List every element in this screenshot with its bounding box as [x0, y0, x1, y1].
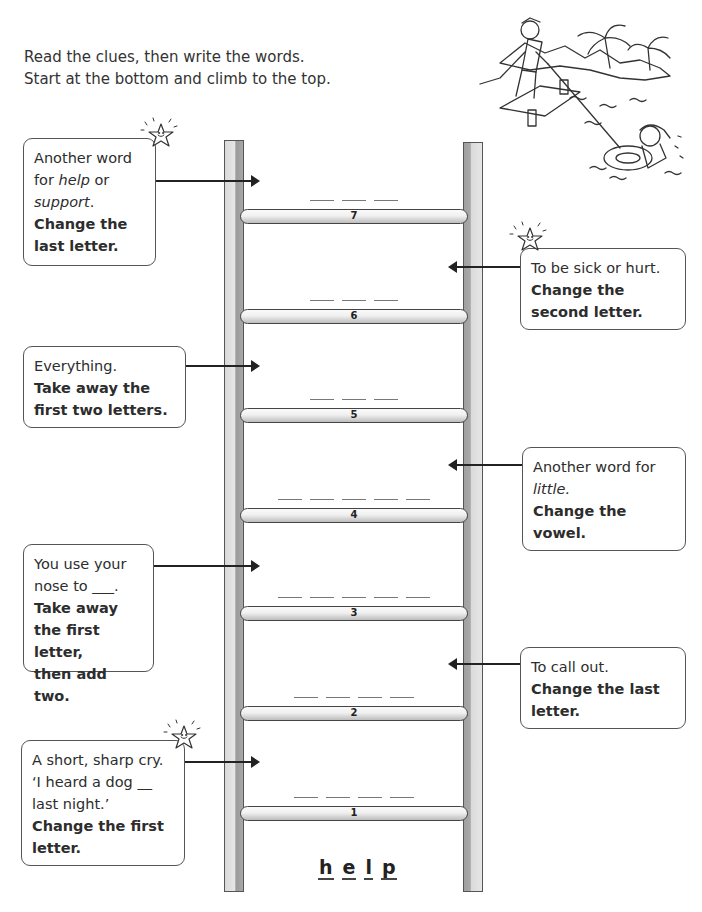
letter-blank[interactable]	[342, 399, 366, 400]
ladder-rung-1: 1	[240, 806, 468, 821]
ladder-rung-7: 7	[240, 209, 468, 224]
clue-instruction: Take away the	[34, 377, 175, 399]
smiling-star-icon	[506, 220, 550, 256]
letter-blank[interactable]	[294, 797, 318, 798]
letter-blank[interactable]	[374, 597, 398, 598]
answer-blanks-rung-7[interactable]	[310, 200, 398, 201]
clue-text: Another word for	[533, 456, 675, 478]
letter-blank[interactable]	[374, 499, 398, 500]
clue-box-rung-7: Another word for help or support. Change…	[23, 138, 156, 266]
start-word: h e l p	[318, 856, 397, 880]
start-word-letter: e	[342, 856, 357, 880]
clue-text: You use your	[34, 553, 143, 575]
letter-blank[interactable]	[342, 597, 366, 598]
answer-blanks-rung-2[interactable]	[294, 697, 414, 698]
clue-box-rung-6: To be sick or hurt. Change the second le…	[520, 248, 686, 330]
ladder-rung-5: 5	[240, 408, 468, 423]
answer-blanks-rung-5[interactable]	[310, 399, 398, 400]
clue-instruction: Change the	[533, 500, 675, 522]
letter-blank[interactable]	[310, 200, 334, 201]
letter-blank[interactable]	[294, 697, 318, 698]
ladder-rung-3: 3	[240, 606, 468, 621]
clue-text: A short, sharp cry.	[32, 749, 174, 771]
smiling-star-icon	[160, 718, 204, 754]
clue-instruction: Change the	[34, 213, 145, 235]
instructions-line-1: Read the clues, then write the words.	[24, 46, 331, 68]
letter-blank[interactable]	[406, 597, 430, 598]
start-word-letter: p	[381, 856, 397, 880]
ladder-rung-4: 4	[240, 508, 468, 523]
arrow-right-icon	[156, 180, 252, 182]
clue-instruction: vowel.	[533, 522, 675, 544]
letter-blank[interactable]	[342, 200, 366, 201]
letter-blank[interactable]	[326, 697, 350, 698]
letter-blank[interactable]	[342, 499, 366, 500]
letter-blank[interactable]	[358, 697, 382, 698]
answer-blanks-rung-3[interactable]	[278, 597, 430, 598]
letter-blank[interactable]	[326, 797, 350, 798]
letter-blank[interactable]	[358, 797, 382, 798]
clue-instruction: first two letters.	[34, 399, 175, 421]
clue-text: little.	[533, 481, 570, 497]
clue-instruction: Change the first	[32, 815, 174, 837]
clue-box-rung-1: A short, sharp cry. ‘I heard a dog __ la…	[21, 740, 185, 866]
start-word-letter: h	[318, 856, 334, 880]
clue-text: support.	[34, 194, 94, 210]
clue-text: To call out.	[531, 656, 675, 678]
arrow-left-icon	[456, 464, 522, 466]
letter-blank[interactable]	[342, 300, 366, 301]
clue-instruction: last letter.	[34, 235, 145, 257]
ladder-rung-2: 2	[240, 706, 468, 721]
answer-blanks-rung-4[interactable]	[278, 499, 430, 500]
arrow-left-icon	[456, 266, 520, 268]
clue-text: Another word	[34, 150, 132, 166]
clue-instruction: Change the last	[531, 678, 675, 700]
arrow-right-icon	[185, 761, 252, 763]
clue-box-rung-5: Everything. Take away the first two lett…	[23, 346, 186, 428]
arrow-right-icon	[186, 365, 252, 367]
smiling-star-icon	[137, 116, 181, 152]
clue-instruction: then add two.	[34, 663, 143, 707]
answer-blanks-rung-1[interactable]	[294, 797, 414, 798]
letter-blank[interactable]	[390, 797, 414, 798]
letter-blank[interactable]	[278, 499, 302, 500]
clue-text: Everything.	[34, 355, 175, 377]
clue-instruction: second letter.	[531, 301, 675, 323]
clue-instruction: the first letter,	[34, 619, 143, 663]
clue-box-rung-2: To call out. Change the last letter.	[520, 647, 686, 729]
answer-blanks-rung-6[interactable]	[310, 300, 398, 301]
letter-blank[interactable]	[310, 300, 334, 301]
clue-box-rung-3: You use your nose to ___. Take away the …	[23, 544, 154, 672]
letter-blank[interactable]	[310, 399, 334, 400]
clue-text: nose to ___.	[34, 575, 143, 597]
clue-instruction: Take away	[34, 597, 143, 619]
letter-blank[interactable]	[390, 697, 414, 698]
letter-blank[interactable]	[374, 200, 398, 201]
clue-text: for help or	[34, 172, 109, 188]
clue-text: ‘I heard a dog __	[32, 771, 174, 793]
letter-blank[interactable]	[310, 499, 334, 500]
letter-blank[interactable]	[278, 597, 302, 598]
rescue-illustration	[470, 8, 695, 183]
instructions: Read the clues, then write the words. St…	[24, 46, 331, 90]
clue-text: To be sick or hurt.	[531, 257, 675, 279]
clue-box-rung-4: Another word for little. Change the vowe…	[522, 447, 686, 551]
letter-blank[interactable]	[374, 399, 398, 400]
clue-instruction: letter.	[32, 837, 174, 859]
ladder-rung-6: 6	[240, 309, 468, 324]
letter-blank[interactable]	[310, 597, 334, 598]
letter-blank[interactable]	[406, 499, 430, 500]
clue-instruction: letter.	[531, 700, 675, 722]
clue-instruction: Change the	[531, 279, 675, 301]
letter-blank[interactable]	[374, 300, 398, 301]
start-word-letter: l	[364, 856, 373, 880]
instructions-line-2: Start at the bottom and climb to the top…	[24, 68, 331, 90]
arrow-left-icon	[456, 663, 520, 665]
arrow-right-icon	[154, 565, 252, 567]
clue-text: last night.’	[32, 793, 174, 815]
